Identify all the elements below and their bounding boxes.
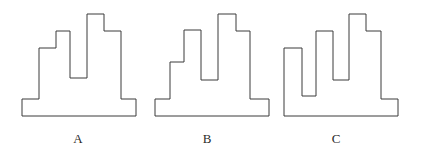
figure-container: A B C (0, 0, 421, 159)
shape-outline-b (155, 14, 269, 116)
shape-label-c: C (324, 132, 348, 145)
shape-outline-c (284, 14, 398, 116)
shape-label-b: B (195, 132, 219, 145)
shape-label-a: A (66, 132, 90, 145)
shape-outline-a (22, 14, 136, 116)
